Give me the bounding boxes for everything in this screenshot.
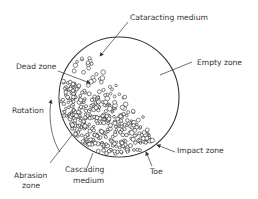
label-abrasion-zone: Abrasion <box>14 171 48 180</box>
label-impact-zone: Impact zone <box>177 146 224 155</box>
label-cascading-medium-2: medium <box>73 176 104 185</box>
label-empty-zone: Empty zone <box>197 58 242 67</box>
ball-mill-diagram: Cataracting medium Empty zone Dead zone … <box>0 0 258 199</box>
label-toe: Toe <box>149 167 163 176</box>
label-cascading-medium: Cascading <box>65 165 104 174</box>
label-dead-zone: Dead zone <box>16 62 57 71</box>
label-cataracting-medium: Cataracting medium <box>130 13 208 22</box>
label-abrasion-zone-2: zone <box>22 181 40 190</box>
label-rotation: Rotation <box>12 106 44 115</box>
